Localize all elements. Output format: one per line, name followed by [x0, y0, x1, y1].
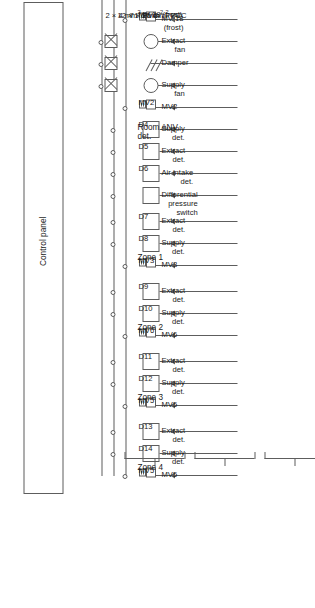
bus-junction — [110, 128, 115, 133]
callout-label: Extract det. — [161, 427, 185, 445]
bus-junction — [110, 290, 115, 295]
bus-junction — [122, 106, 127, 111]
bus-junction — [98, 40, 103, 45]
bus-junction — [110, 382, 115, 387]
bus-junction — [110, 312, 115, 317]
fan-symbol[interactable] — [143, 79, 158, 94]
device-tag: D9 — [138, 283, 148, 292]
fan-symbol[interactable] — [143, 35, 158, 50]
callout-label: Extract det. — [161, 357, 185, 375]
bus-junction — [110, 194, 115, 199]
device-tag: D11 — [138, 353, 151, 362]
bus-junction — [110, 360, 115, 365]
callout-label: Supply fan — [161, 81, 184, 99]
group-brace-spine — [264, 458, 315, 459]
group-brace-arm — [264, 452, 265, 459]
callout-label: Extract det. — [161, 287, 185, 305]
group-label-zone1: Zone 1 — [137, 254, 163, 263]
bus-junction — [110, 452, 115, 457]
callout-label: Supply det. — [161, 239, 184, 257]
bus-junction — [122, 334, 127, 339]
callout-label: Supply det. — [161, 379, 184, 397]
bus-junction — [110, 150, 115, 155]
schematic-canvas: Control panelMV 18 (frost)MV 18 (frost)E… — [0, 0, 315, 608]
device-tag: D10 — [138, 305, 152, 314]
group-brace-arm — [184, 452, 185, 459]
callout-label: MV5 — [161, 471, 177, 480]
contactor-symbol[interactable] — [104, 36, 117, 49]
callout-label: MV3 — [161, 261, 177, 270]
group-brace-tip — [294, 459, 295, 466]
bus-junction — [110, 242, 115, 247]
group-label-zone3: Zone 3 — [137, 394, 163, 403]
damper-symbol[interactable] — [142, 58, 158, 70]
callout-label: Extract fan — [161, 37, 185, 55]
cable-label: 2 × 4 mm2 PVC — [105, 8, 158, 20]
callout-label: Differential pressure switch — [161, 191, 197, 217]
bus-junction — [122, 404, 127, 409]
device-tag: D8 — [138, 235, 148, 244]
callout-label: MV5 — [161, 401, 177, 410]
device-tag: D7 — [138, 213, 148, 222]
device-tag: D5 — [138, 143, 148, 152]
group-brace-arm — [254, 452, 255, 459]
callout-label: Damper — [161, 59, 188, 68]
contactor-symbol[interactable] — [104, 58, 117, 71]
callout-label: MV6 — [161, 331, 177, 340]
device-tag: MV2 — [138, 99, 154, 108]
callout-label: Supply det. — [161, 309, 184, 327]
callout-label: Extract det. — [161, 147, 185, 165]
schematic-stage: Control panelMV 18 (frost)MV 18 (frost)E… — [0, 0, 315, 608]
bus-junction — [110, 430, 115, 435]
device-tag: D12 — [138, 375, 152, 384]
callout-label: Extract det. — [161, 217, 185, 235]
control-panel-label: Control panel — [37, 217, 47, 266]
bus-line-3 — [101, 0, 102, 476]
bus-junction — [122, 264, 127, 269]
bus-junction — [98, 62, 103, 67]
bus-junction — [110, 220, 115, 225]
detector-box[interactable] — [142, 188, 159, 205]
bus-junction — [98, 84, 103, 89]
group-brace-arm — [124, 452, 125, 459]
callout-label: Air intake det. — [161, 169, 193, 187]
group-label-zone2: Zone 2 — [137, 324, 163, 333]
bus-line-2 — [113, 0, 114, 476]
group-brace-tip — [224, 459, 225, 466]
device-tag: D6 — [138, 165, 148, 174]
bus-junction — [110, 172, 115, 177]
contactor-symbol[interactable] — [104, 80, 117, 93]
device-tag: D14 — [138, 445, 152, 454]
group-brace-arm — [194, 452, 195, 459]
device-tag: D13 — [138, 423, 152, 432]
bus-junction — [122, 474, 127, 479]
callout-label: MV2 — [161, 103, 177, 112]
group-label-zone4: Zone 4 — [137, 464, 163, 473]
group-label-room-anv: Room ANV det. — [137, 124, 178, 142]
